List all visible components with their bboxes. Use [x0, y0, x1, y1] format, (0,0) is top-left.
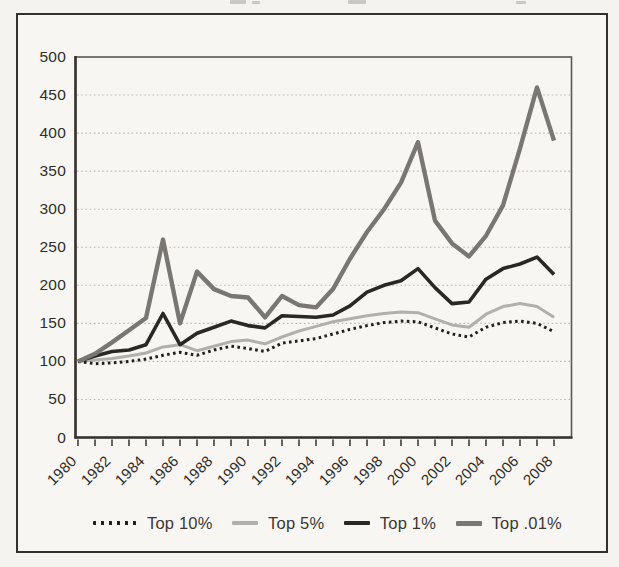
y-tick-label: 400: [22, 124, 66, 142]
scan-artifact-mark: [252, 1, 260, 4]
y-tick-label: 100: [22, 352, 66, 370]
legend-swatch-top-5-: [232, 521, 258, 525]
scan-artifact-mark: [230, 0, 246, 4]
y-tick-label: 0: [22, 429, 66, 447]
legend-swatch-top-01-: [456, 521, 482, 526]
y-tick-label: 450: [22, 86, 66, 104]
y-tick-label: 150: [22, 314, 66, 332]
legend-item-top-10-: Top 10%: [93, 514, 213, 533]
y-tick-label: 250: [22, 238, 66, 256]
scan-artifact-mark: [516, 1, 526, 4]
legend-label: Top 5%: [268, 514, 324, 533]
legend-label: Top 10%: [147, 514, 213, 533]
legend-swatch-top-1-: [344, 521, 370, 525]
legend-swatch-top-10-: [93, 521, 137, 525]
legend-item-top-01-: Top .01%: [456, 514, 562, 533]
legend: Top 10%Top 5%Top 1%Top .01%: [75, 512, 572, 534]
legend-item-top-5-: Top 5%: [232, 514, 324, 533]
y-tick-label: 500: [22, 48, 66, 66]
scan-artifact-mark: [348, 0, 366, 4]
legend-label: Top 1%: [380, 514, 436, 533]
y-tick-label: 350: [22, 162, 66, 180]
scanned-chart-page: { "chart_data": { "type": "line", "title…: [0, 0, 619, 567]
y-tick-label: 300: [22, 200, 66, 218]
y-tick-label: 50: [22, 390, 66, 408]
legend-item-top-1-: Top 1%: [344, 514, 436, 533]
legend-label: Top .01%: [492, 514, 562, 533]
y-tick-label: 200: [22, 276, 66, 294]
